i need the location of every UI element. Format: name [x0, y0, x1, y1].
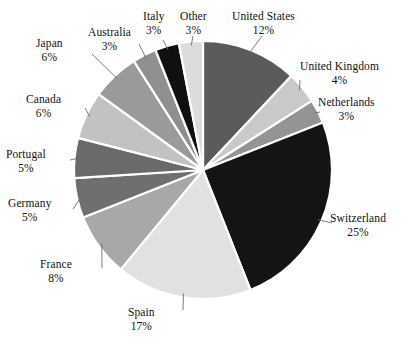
pie-label-switzerland-name: Switzerland — [330, 212, 386, 226]
pie-chart-canvas — [0, 0, 419, 349]
pie-label-canada-name: Canada — [26, 93, 61, 107]
pie-label-france-value: 8% — [40, 272, 72, 286]
pie-label-japan-name: Japan — [36, 37, 63, 51]
pie-label-australia: Australia 3% — [88, 26, 131, 53]
pie-label-japan: Japan 6% — [36, 37, 63, 64]
pie-label-netherlands-name: Netherlands — [318, 96, 375, 110]
pie-label-united-kingdom-name: United Kingdom — [300, 60, 379, 74]
pie-label-australia-name: Australia — [88, 26, 131, 40]
pie-label-italy: Italy 3% — [143, 10, 165, 37]
pie-slices-group — [74, 41, 332, 299]
pie-label-spain-name: Spain — [128, 306, 155, 320]
pie-label-switzerland-value: 25% — [330, 226, 386, 240]
pie-chart: United States 12% United Kingdom 4% Neth… — [0, 0, 419, 349]
pie-label-canada-value: 6% — [26, 107, 61, 121]
pie-label-portugal: Portugal 5% — [6, 148, 46, 175]
pie-label-united-kingdom-value: 4% — [300, 74, 379, 88]
pie-label-germany: Germany 5% — [8, 197, 52, 224]
pie-label-portugal-name: Portugal — [6, 148, 46, 162]
pie-label-netherlands-value: 3% — [318, 110, 375, 124]
pie-label-france: France 8% — [40, 258, 72, 285]
pie-label-france-name: France — [40, 258, 72, 272]
pie-label-japan-value: 6% — [36, 51, 63, 65]
pie-label-australia-value: 3% — [88, 40, 131, 54]
pie-label-italy-value: 3% — [143, 24, 165, 38]
pie-label-netherlands: Netherlands 3% — [318, 96, 375, 123]
pie-label-spain: Spain 17% — [128, 306, 155, 333]
pie-label-united-states: United States 12% — [232, 10, 295, 37]
pie-label-germany-name: Germany — [8, 197, 52, 211]
pie-label-other: Other 3% — [180, 10, 207, 37]
pie-label-other-name: Other — [180, 10, 207, 24]
pie-label-united-kingdom: United Kingdom 4% — [300, 60, 379, 87]
pie-label-switzerland: Switzerland 25% — [330, 212, 386, 239]
pie-label-portugal-value: 5% — [6, 162, 46, 176]
pie-label-united-states-name: United States — [232, 10, 295, 24]
pie-label-other-value: 3% — [180, 24, 207, 38]
pie-label-canada: Canada 6% — [26, 93, 61, 120]
pie-label-united-states-value: 12% — [232, 24, 295, 38]
pie-label-italy-name: Italy — [143, 10, 165, 24]
pie-label-germany-value: 5% — [8, 211, 52, 225]
leader-line-japan — [92, 54, 117, 79]
pie-label-spain-value: 17% — [128, 320, 155, 334]
